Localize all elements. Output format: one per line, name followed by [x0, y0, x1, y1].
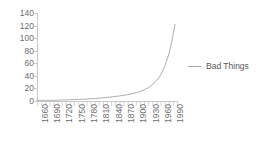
y-axis-tick-mark — [34, 63, 37, 64]
x-axis-tick-label: 1930 — [152, 104, 161, 123]
x-axis-tick-label: 1750 — [78, 104, 87, 123]
y-axis-tick-label: 140 — [8, 9, 34, 18]
x-axis-tick-label: 1960 — [164, 104, 173, 123]
line-series-bad-things — [37, 13, 177, 101]
x-axis-tick-label: 1690 — [53, 104, 62, 123]
y-axis-tick-mark — [34, 26, 37, 27]
y-axis-tick-mark — [34, 51, 37, 52]
x-axis-tick-label: 1900 — [139, 104, 148, 123]
chart-container: 140120100806040200 166016901720175017801… — [0, 0, 276, 148]
plot-area — [37, 13, 177, 101]
series-line-path — [37, 24, 175, 100]
x-axis-tick-label: 1810 — [102, 104, 111, 123]
x-axis-tick-label: 1990 — [176, 104, 185, 123]
x-axis-tick-label: 1840 — [115, 104, 124, 123]
y-axis-tick-label: 60 — [8, 59, 34, 68]
y-axis-tick-label: 0 — [8, 97, 34, 106]
y-axis-tick-mark — [34, 101, 37, 102]
legend-label: Bad Things — [206, 62, 249, 71]
y-axis-tick-mark — [34, 88, 37, 89]
y-axis-tick-mark — [34, 13, 37, 14]
legend-line-swatch — [188, 66, 201, 67]
y-axis-labels: 140120100806040200 — [8, 0, 34, 148]
legend: Bad Things — [188, 62, 249, 71]
x-axis-tick-label: 1720 — [65, 104, 74, 123]
y-axis-tick-label: 100 — [8, 34, 34, 43]
x-axis-labels: 1660169017201750178018101840187019001930… — [37, 104, 178, 148]
y-axis-tick-mark — [34, 76, 37, 77]
y-axis-tick-label: 80 — [8, 46, 34, 55]
y-axis-tick-mark — [34, 38, 37, 39]
x-axis-tick-label: 1780 — [90, 104, 99, 123]
x-axis-tick-label: 1870 — [127, 104, 136, 123]
y-axis-tick-label: 20 — [8, 84, 34, 93]
y-axis-tick-label: 120 — [8, 21, 34, 30]
y-axis-tick-label: 40 — [8, 72, 34, 81]
x-axis-tick-label: 1660 — [41, 104, 50, 123]
